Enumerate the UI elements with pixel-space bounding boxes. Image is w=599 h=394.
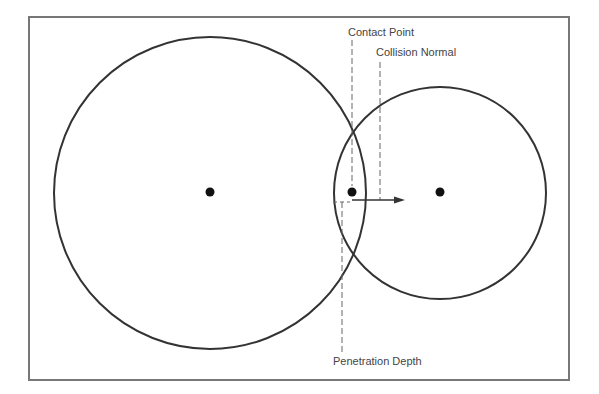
collision-normal-label: Collision Normal [376, 46, 456, 58]
diagram-frame [29, 17, 569, 380]
center-point-b [436, 188, 445, 197]
collision-diagram: Contact Point Collision Normal Penetrati… [0, 0, 599, 394]
penetration-depth-label: Penetration Depth [333, 355, 422, 367]
arrow-head-icon [394, 197, 405, 204]
contact-point-label: Contact Point [348, 26, 414, 38]
center-point-a [206, 188, 215, 197]
contact-point-dot [348, 188, 357, 197]
